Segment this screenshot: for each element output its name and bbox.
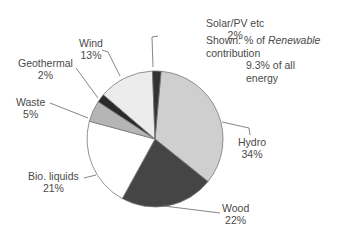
label-hydro-name: Hydro bbox=[238, 136, 266, 148]
annotation-line3: 9.3% of all bbox=[206, 59, 320, 72]
chart-annotation: Shown: % of Renewable contribution 9.3% … bbox=[206, 34, 320, 84]
annotation-prefix: Shown: % of bbox=[206, 34, 268, 46]
leader-wood bbox=[164, 206, 220, 213]
annotation-line2: contribution bbox=[206, 47, 320, 60]
annotation-line1: Shown: % of Renewable bbox=[206, 34, 320, 47]
leader-waste bbox=[50, 103, 88, 118]
label-waste-value: 5% bbox=[16, 108, 45, 120]
annotation-line4: energy bbox=[206, 72, 320, 85]
label-geothermal-name: Geothermal bbox=[18, 57, 73, 69]
label-waste-name: Waste bbox=[16, 96, 45, 108]
label-hydro: Hydro 34% bbox=[238, 136, 266, 160]
label-wood: Wood 22% bbox=[222, 202, 249, 226]
leader-wind bbox=[102, 50, 120, 76]
label-geothermal: Geothermal 2% bbox=[18, 57, 73, 81]
annotation-italic: Renewable bbox=[268, 34, 321, 46]
leader-hydro bbox=[222, 122, 250, 135]
leader-solar bbox=[152, 36, 158, 67]
label-wood-value: 22% bbox=[222, 214, 249, 226]
label-wood-name: Wood bbox=[222, 202, 249, 214]
label-wind: Wind 13% bbox=[79, 37, 103, 61]
label-bioliquids-value: 21% bbox=[28, 182, 79, 194]
label-waste: Waste 5% bbox=[16, 96, 45, 120]
label-hydro-value: 34% bbox=[238, 148, 266, 160]
label-bioliquids: Bio. liquids 21% bbox=[28, 170, 79, 194]
label-solar-name: Solar/PV etc bbox=[206, 17, 264, 29]
pie-slices bbox=[87, 71, 223, 207]
label-bioliquids-name: Bio. liquids bbox=[28, 170, 79, 182]
label-geothermal-value: 2% bbox=[18, 69, 73, 81]
label-wind-value: 13% bbox=[79, 49, 103, 61]
label-wind-name: Wind bbox=[79, 37, 103, 49]
leader-bioliquids bbox=[84, 175, 96, 178]
leader-geothermal bbox=[76, 68, 98, 98]
